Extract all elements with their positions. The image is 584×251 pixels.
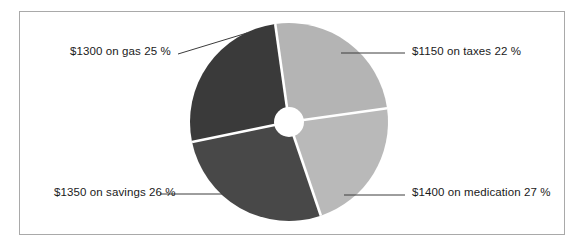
pie-chart-figure: $1300 on gas 25 % $1150 on taxes 22 % $1… [0,0,584,251]
slice-label-gas: $1300 on gas 25 % [70,45,171,57]
donut-center-hole [274,107,304,137]
slice-label-savings: $1350 on savings 26 % [54,186,176,198]
donut-chart-graphic [0,0,584,251]
slice-label-medication: $1400 on medication 27 % [412,186,551,198]
slice-label-taxes: $1150 on taxes 22 % [412,45,521,57]
pie-slice-gas[interactable] [275,23,387,122]
